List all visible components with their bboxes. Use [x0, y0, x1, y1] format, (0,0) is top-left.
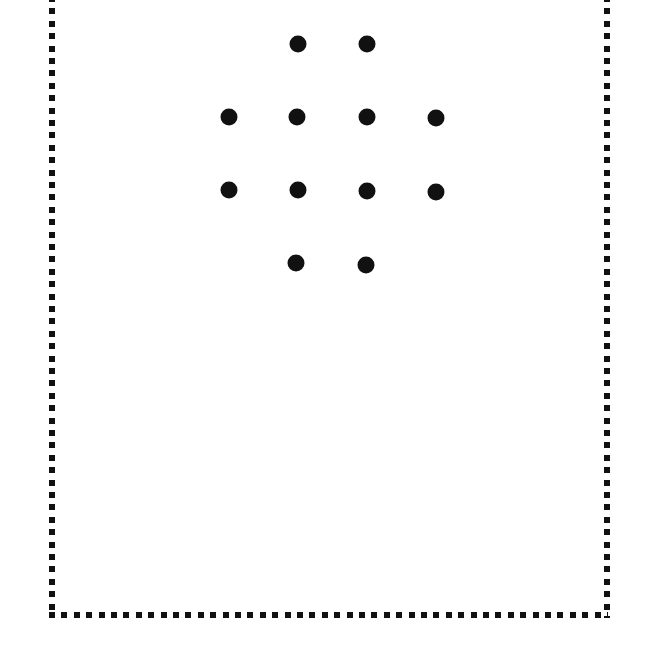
dotted-frame: [49, 0, 608, 618]
dot: [290, 182, 307, 199]
dot: [359, 36, 376, 53]
dot: [221, 182, 238, 199]
dot: [288, 255, 305, 272]
frame-border-right: [604, 0, 610, 618]
dot: [358, 257, 375, 274]
dot: [428, 184, 445, 201]
frame-border-left: [49, 0, 55, 618]
dot: [221, 109, 238, 126]
dot: [428, 110, 445, 127]
dot: [359, 109, 376, 126]
dot: [290, 36, 307, 53]
dot: [289, 109, 306, 126]
dot: [359, 183, 376, 200]
frame-border-bottom: [49, 612, 608, 618]
